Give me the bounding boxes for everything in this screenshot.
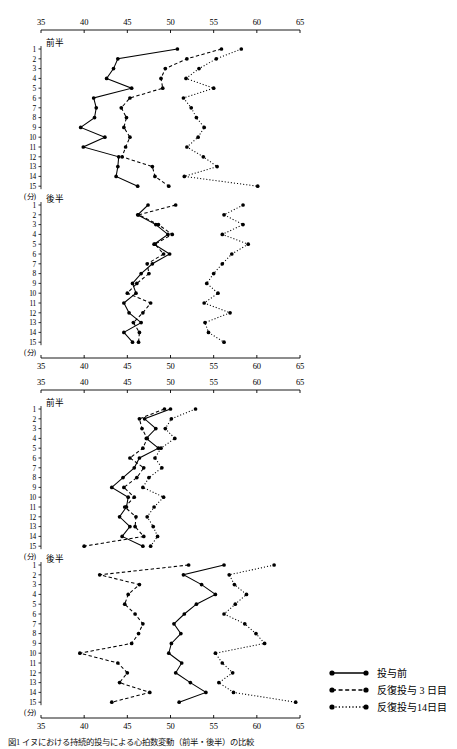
row-label: 7: [10, 620, 36, 629]
series-line: [121, 49, 221, 186]
data-point: [222, 213, 226, 217]
data-point: [141, 622, 145, 626]
row-label: 5: [10, 600, 36, 609]
data-point: [222, 612, 226, 616]
row-label: 7: [10, 260, 36, 269]
row-label: 12: [10, 153, 36, 162]
axis-tick-label: 55: [202, 377, 226, 387]
row-label: 13: [10, 162, 36, 171]
data-point: [141, 486, 145, 490]
data-point: [207, 331, 211, 335]
data-point: [146, 203, 150, 207]
data-point: [132, 321, 136, 325]
data-point: [203, 321, 207, 325]
data-point: [220, 262, 224, 266]
row-label: 1: [10, 45, 36, 54]
row-label: 14: [10, 172, 36, 181]
data-point: [162, 252, 166, 256]
data-point: [105, 77, 109, 81]
legend-label-0: 投与前: [377, 665, 407, 680]
data-point: [232, 691, 236, 695]
data-point: [148, 691, 152, 695]
row-label: 6: [10, 610, 36, 619]
data-point: [241, 203, 245, 207]
row-label: 4: [10, 74, 36, 83]
row-label: 4: [10, 590, 36, 599]
row-label: 3: [10, 424, 36, 433]
data-point: [294, 700, 298, 704]
data-point: [128, 96, 132, 100]
data-point: [170, 417, 174, 421]
axis-tick-label: 60: [245, 377, 269, 387]
data-point: [134, 515, 138, 519]
data-point: [167, 184, 171, 188]
axis-tick-label: 35: [29, 377, 53, 387]
data-point: [98, 573, 102, 577]
row-label: 10: [10, 493, 36, 502]
row-label: 4: [10, 434, 36, 443]
data-point: [202, 126, 206, 130]
data-point: [214, 651, 218, 655]
row-label: 14: [10, 328, 36, 337]
data-point: [132, 495, 136, 499]
row-label: 13: [10, 318, 36, 327]
axis-unit-label: (分): [6, 550, 36, 561]
data-point: [184, 77, 188, 81]
axis-tick-label: 35: [29, 721, 53, 731]
data-point: [133, 525, 137, 529]
data-point: [149, 301, 153, 305]
row-label: 7: [10, 464, 36, 473]
series-line: [124, 205, 170, 342]
figure-caption: 図1 イヌにおける持続的投与による心拍数変動（前半・後半）の比較: [8, 737, 457, 748]
data-point: [145, 515, 149, 519]
data-point: [121, 476, 125, 480]
dotted-line-key: [327, 701, 371, 713]
data-point: [141, 446, 145, 450]
data-point: [130, 86, 134, 90]
row-label: 10: [10, 289, 36, 298]
data-point: [153, 242, 157, 246]
axis-tick-label: 45: [115, 361, 139, 371]
section-label-first-half-2: 前半: [46, 396, 64, 408]
data-point: [196, 135, 200, 139]
row-label: 9: [10, 123, 36, 132]
data-point: [125, 291, 129, 295]
data-point: [222, 340, 226, 344]
data-point: [124, 145, 128, 149]
axis-tick-label: 55: [202, 361, 226, 371]
data-point: [137, 340, 141, 344]
axis-tick-label: 45: [115, 721, 139, 731]
data-point: [128, 456, 132, 460]
data-point: [116, 57, 120, 61]
axis-tick-label: 55: [202, 721, 226, 731]
data-point: [215, 165, 219, 169]
axis-tick-label: 50: [159, 17, 183, 27]
row-label: 10: [10, 133, 36, 142]
row-label: 5: [10, 240, 36, 249]
data-point: [189, 106, 193, 110]
row-label: 1: [10, 405, 36, 414]
axis-tick-label: 60: [245, 721, 269, 731]
data-point: [125, 671, 129, 675]
row-label: 6: [10, 94, 36, 103]
data-point: [185, 145, 189, 149]
data-point: [103, 135, 107, 139]
axis-tick-label: 65: [288, 721, 312, 731]
data-point: [79, 126, 83, 130]
data-point: [194, 407, 198, 411]
data-point: [254, 632, 258, 636]
row-label: 4: [10, 230, 36, 239]
data-point: [122, 126, 126, 130]
chart-1-plot: [0, 0, 457, 365]
data-point: [168, 252, 172, 256]
data-point: [174, 671, 178, 675]
data-point: [131, 340, 135, 344]
data-point: [139, 272, 143, 276]
legend-label-2: 反復投与14日目: [377, 699, 447, 714]
row-label: 2: [10, 211, 36, 220]
data-point: [157, 223, 161, 227]
data-point: [170, 642, 174, 646]
data-point: [231, 671, 235, 675]
row-label: 8: [10, 269, 36, 278]
data-point: [138, 583, 142, 587]
